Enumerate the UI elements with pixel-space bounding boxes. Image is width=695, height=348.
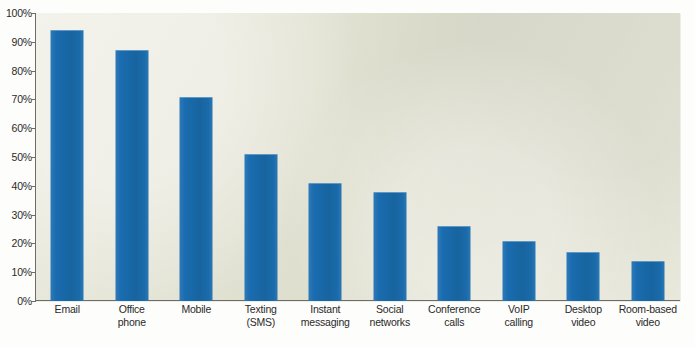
y-axis-tick-label: 20% xyxy=(12,238,32,249)
bars-layer xyxy=(35,13,680,301)
category-label-line-1: Office xyxy=(119,303,145,315)
x-axis-category-label: VoIPcalling xyxy=(487,303,552,328)
category-label-line-2: phone xyxy=(100,316,165,329)
category-label-line-2: messaging xyxy=(293,316,358,329)
bar[interactable] xyxy=(180,97,213,301)
x-axis-category-label: Room-basedvideo xyxy=(616,303,681,328)
category-label-line-1: Mobile xyxy=(181,303,211,315)
category-label-line-2: (SMS) xyxy=(229,316,294,329)
bar-slot xyxy=(35,13,100,301)
bar-slot xyxy=(422,13,487,301)
category-label-line-1: Texting xyxy=(245,303,277,315)
x-axis-category-label: Instantmessaging xyxy=(293,303,358,328)
category-label-line-1: Desktop xyxy=(565,303,602,315)
y-axis-tick-label: 30% xyxy=(12,209,32,220)
bar[interactable] xyxy=(567,252,600,301)
bar-slot xyxy=(358,13,423,301)
y-axis-tick-label: 0% xyxy=(17,296,32,307)
bar-slot xyxy=(229,13,294,301)
x-axis-category-label: Texting(SMS) xyxy=(229,303,294,328)
bar-chart: 100%90%80%70%60%50%40%30%20%10%0% EmailO… xyxy=(0,0,695,348)
x-axis-category-label: Conferencecalls xyxy=(422,303,487,328)
bar-slot xyxy=(551,13,616,301)
category-label-line-2: calling xyxy=(487,316,552,329)
category-label-line-1: Instant xyxy=(310,303,340,315)
y-axis-tick-mark xyxy=(31,301,36,302)
category-label-line-2: calls xyxy=(422,316,487,329)
y-axis-tick-label: 70% xyxy=(12,94,32,105)
category-label-line-1: Conference xyxy=(428,303,480,315)
x-axis-category-label: Socialnetworks xyxy=(358,303,423,328)
y-axis-tick-label: 40% xyxy=(12,181,32,192)
y-axis-tick-label: 60% xyxy=(12,123,32,134)
x-axis-category-label: Mobile xyxy=(164,303,229,316)
bar[interactable] xyxy=(373,192,406,301)
x-axis-category-label: Desktopvideo xyxy=(551,303,616,328)
category-label-line-1: Room-based xyxy=(619,303,677,315)
x-axis: EmailOfficephoneMobileTexting(SMS)Instan… xyxy=(35,303,680,348)
y-axis-tick-label: 10% xyxy=(12,267,32,278)
category-label-line-2: video xyxy=(616,316,681,329)
y-axis-tick-label: 90% xyxy=(12,37,32,48)
bar-slot xyxy=(616,13,681,301)
bar[interactable] xyxy=(244,154,277,301)
y-axis-tick-label: 50% xyxy=(12,152,32,163)
category-label-line-2: networks xyxy=(358,316,423,329)
y-axis-tick-label: 100% xyxy=(6,8,32,19)
bar[interactable] xyxy=(309,183,342,301)
y-axis: 100%90%80%70%60%50%40%30%20%10%0% xyxy=(0,0,34,348)
y-axis-tick-label: 80% xyxy=(12,65,32,76)
category-label-line-2: video xyxy=(551,316,616,329)
bar[interactable] xyxy=(631,261,664,301)
category-label-line-1: Email xyxy=(55,303,80,315)
bar[interactable] xyxy=(438,226,471,301)
bar-slot xyxy=(100,13,165,301)
bar-slot xyxy=(164,13,229,301)
category-label-line-1: Social xyxy=(376,303,403,315)
bar-slot xyxy=(487,13,552,301)
bar[interactable] xyxy=(115,50,148,301)
bar[interactable] xyxy=(502,241,535,301)
x-axis-category-label: Officephone xyxy=(100,303,165,328)
bar-slot xyxy=(293,13,358,301)
bar[interactable] xyxy=(51,30,84,301)
category-label-line-1: VoIP xyxy=(508,303,529,315)
x-axis-category-label: Email xyxy=(35,303,100,316)
